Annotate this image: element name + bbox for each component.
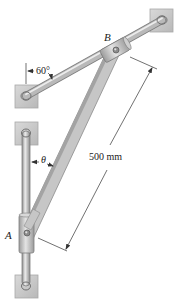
vertical-rod [22, 129, 31, 290]
pin-a [24, 230, 30, 236]
label-collar-a: A [5, 230, 12, 241]
label-angle-theta: θ [41, 155, 46, 165]
label-angle-60: 60° [36, 66, 50, 76]
label-dimension-500mm: 500 mm [89, 152, 122, 162]
pin-b [113, 47, 119, 53]
label-collar-b: B [104, 32, 111, 43]
